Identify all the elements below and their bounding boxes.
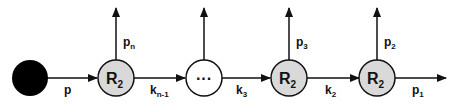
edge-k-3-label: k3 xyxy=(236,83,248,99)
edge-p-label: p xyxy=(64,83,71,97)
output-p-n-label: pn xyxy=(123,35,135,51)
source-node xyxy=(12,60,48,96)
output-p-3-label: p3 xyxy=(296,35,308,51)
reaction-chain-diagram: R2 ··· R2 R2 p kn-1 k3 k2 p1 pn p3 p2 xyxy=(0,0,459,104)
output-p-2-label: p2 xyxy=(384,35,396,51)
node-ellipsis-label: ··· xyxy=(196,70,212,87)
edge-p-1-label: p1 xyxy=(412,83,424,99)
edge-k-2-label: k2 xyxy=(325,83,337,99)
edge-k-n-1-label: kn-1 xyxy=(150,83,169,99)
